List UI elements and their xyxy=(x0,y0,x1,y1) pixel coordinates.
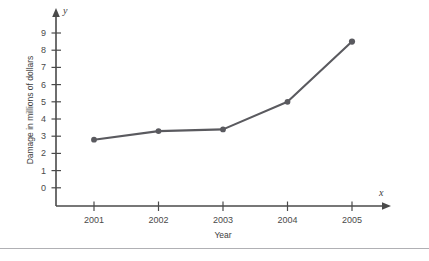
y-tick-label-3: 3 xyxy=(41,131,46,141)
x-tick-label-2001: 2001 xyxy=(84,215,104,225)
data-points[interactable] xyxy=(91,39,355,143)
y-axis-title: Damage in millions of dollars xyxy=(25,56,35,165)
data-point-2004[interactable] xyxy=(285,99,291,105)
y-tick-label-9: 9 xyxy=(41,28,46,38)
x-tick-label-2003: 2003 xyxy=(213,215,233,225)
x-axis-variable-label: x xyxy=(378,187,384,198)
y-tick-label-4: 4 xyxy=(41,114,46,124)
x-tick-label-2004: 2004 xyxy=(277,215,297,225)
x-axis-title: Year xyxy=(214,230,231,240)
data-point-2002[interactable] xyxy=(156,128,162,134)
x-tick-label-2005: 2005 xyxy=(342,215,362,225)
y-tick-label-2: 2 xyxy=(41,148,46,158)
y-tick-label-5: 5 xyxy=(41,97,46,107)
chart-figure: 9 8 7 6 5 4 3 2 1 0 2001 2002 2003 2004 … xyxy=(0,0,429,261)
data-point-2003[interactable] xyxy=(220,126,226,132)
y-tick-label-6: 6 xyxy=(41,80,46,90)
data-line-damage[interactable] xyxy=(94,42,352,140)
y-axis xyxy=(52,8,60,206)
data-point-2001[interactable] xyxy=(91,137,97,143)
data-point-2005[interactable] xyxy=(349,39,355,45)
line-chart[interactable]: 9 8 7 6 5 4 3 2 1 0 2001 2002 2003 2004 … xyxy=(0,0,429,261)
y-tick-label-7: 7 xyxy=(41,62,46,72)
x-tick-label-2002: 2002 xyxy=(148,215,168,225)
y-tick-label-1: 1 xyxy=(41,166,46,176)
y-axis-variable-label: y xyxy=(62,5,68,16)
page-divider-rule xyxy=(0,248,429,249)
y-tick-label-8: 8 xyxy=(41,45,46,55)
y-tick-label-0: 0 xyxy=(41,183,46,193)
